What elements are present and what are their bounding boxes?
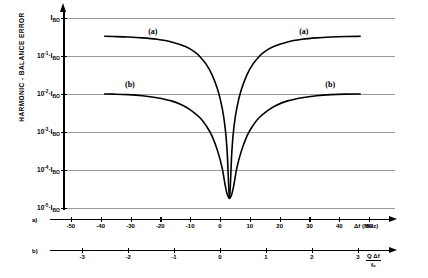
x-tick-label: -20 <box>145 223 175 229</box>
x-tick-mark <box>280 217 281 222</box>
x-axis-a-row-tag: a) <box>32 217 37 223</box>
x-tick-mark <box>128 248 129 253</box>
x-tick-label: 30 <box>294 223 324 229</box>
y-tick-mark <box>61 208 67 209</box>
x-tick-mark <box>101 217 102 222</box>
x-tick-mark <box>174 248 175 253</box>
x-tick-label: 40 <box>324 223 354 229</box>
y-tick-label: 10-3·IBO <box>14 128 60 136</box>
gridline <box>64 208 395 209</box>
x-tick-mark <box>131 217 132 222</box>
y-tick-label: 10-4·IBO <box>14 166 60 174</box>
x-tick-label: 3 <box>343 254 373 260</box>
x-tick-mark <box>220 248 221 253</box>
x-axis-a: a) Δf (MHz) -50-40-30-20-1001020304050 <box>0 212 428 236</box>
x-tick-mark <box>312 248 313 253</box>
y-axis-tick-labels: IBO10-1·IBO10-2·IBO10-3·IBO10-4·IBO10-5·… <box>10 0 60 215</box>
curve-a-left <box>105 36 230 198</box>
x-tick-mark <box>358 248 359 253</box>
series-label-b-left: (b) <box>125 81 135 89</box>
x-tick-label: -3 <box>67 254 97 260</box>
x-tick-label: 10 <box>235 223 265 229</box>
x-tick-label: 1 <box>251 254 281 260</box>
x-tick-mark <box>71 217 72 222</box>
x-tick-label: -2 <box>113 254 143 260</box>
x-axis-b-title-denominator: f₀ <box>366 261 381 268</box>
x-tick-mark <box>190 217 191 222</box>
y-tick-label: 10-2·IBO <box>14 90 60 98</box>
harmonic-balance-error-chart: HARMONIC - BALANCE ERROR IBO10-1·IBO10-2… <box>0 0 428 278</box>
x-axis-a-arrow-icon <box>389 216 397 222</box>
x-tick-label: 0 <box>205 254 235 260</box>
x-tick-label: 20 <box>265 223 295 229</box>
x-tick-mark <box>339 217 340 222</box>
x-tick-label: 50 <box>354 223 384 229</box>
y-tick-label: 10-5·IBO <box>14 204 60 212</box>
x-tick-mark <box>369 217 370 222</box>
x-tick-label: -40 <box>86 223 116 229</box>
curve-b-left <box>105 94 230 198</box>
x-tick-mark <box>82 248 83 253</box>
curve-a-right <box>230 36 361 198</box>
x-tick-label: 2 <box>297 254 327 260</box>
x-tick-label: 0 <box>205 223 235 229</box>
series-label-b-right: (b) <box>325 81 335 89</box>
x-tick-label: -30 <box>116 223 146 229</box>
series-label-a-right: (a) <box>299 28 308 36</box>
x-tick-mark <box>220 217 221 222</box>
series-label-a-left: (a) <box>148 28 157 36</box>
x-tick-mark <box>160 217 161 222</box>
x-axis-b: b) Q Δf f₀ -3-2-10123 <box>0 243 428 273</box>
x-tick-mark <box>266 248 267 253</box>
curve-b-right <box>230 94 361 198</box>
x-tick-label: -50 <box>56 223 86 229</box>
x-axis-b-row-tag: b) <box>32 248 38 254</box>
x-tick-label: -10 <box>175 223 205 229</box>
y-tick-label: IBO <box>14 14 60 22</box>
x-axis-b-arrow-icon <box>389 247 397 253</box>
curve-canvas <box>64 18 395 208</box>
x-tick-label: -1 <box>159 254 189 260</box>
x-tick-mark <box>250 217 251 222</box>
y-tick-label: 10-1·IBO <box>14 52 60 60</box>
x-tick-mark <box>309 217 310 222</box>
